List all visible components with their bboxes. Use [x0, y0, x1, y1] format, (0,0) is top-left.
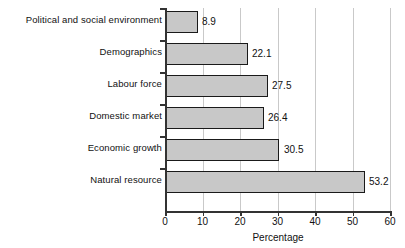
bar-value-0: 8.9: [202, 16, 216, 28]
category-label-1: Demographics: [2, 46, 162, 57]
x-tick-label-10: 10: [188, 216, 218, 228]
category-label-3: Domestic market: [2, 110, 162, 121]
category-label-5: Natural resource: [2, 174, 162, 185]
x-tick-label-60: 60: [375, 216, 405, 228]
y-tick-4: [160, 136, 165, 138]
category-label-2: Labour force: [2, 78, 162, 89]
y-axis-line: [165, 8, 167, 211]
bar-value-2: 27.5: [272, 80, 291, 92]
x-tick-label-40: 40: [300, 216, 330, 228]
bar-value-5: 53.2: [369, 176, 388, 188]
y-tick-5: [160, 168, 165, 170]
x-axis-title: Percentage: [165, 232, 391, 244]
x-tick-label-30: 30: [263, 216, 293, 228]
y-tick-1: [160, 40, 165, 42]
bar-labour-force: [165, 75, 268, 97]
bar-economic-growth: [165, 139, 279, 161]
bar-political-and-social-environment: [165, 11, 198, 33]
y-tick-2: [160, 72, 165, 74]
gridline-60: [390, 8, 391, 211]
category-label-4: Economic growth: [2, 142, 162, 153]
x-tick-label-0: 0: [150, 216, 180, 228]
bar-demographics: [165, 43, 248, 65]
bar-domestic-market: [165, 107, 264, 129]
bar-value-1: 22.1: [252, 48, 271, 60]
y-tick-0: [160, 8, 165, 10]
bar-value-4: 30.5: [284, 144, 303, 156]
plot-area: [165, 8, 390, 211]
bar-natural-resource: [165, 171, 365, 193]
x-tick-label-20: 20: [225, 216, 255, 228]
bar-chart: Political and social environment Demogra…: [0, 0, 405, 248]
category-label-0: Political and social environment: [2, 14, 162, 25]
bar-value-3: 26.4: [268, 112, 287, 124]
x-tick-label-50: 50: [338, 216, 368, 228]
y-tick-3: [160, 104, 165, 106]
